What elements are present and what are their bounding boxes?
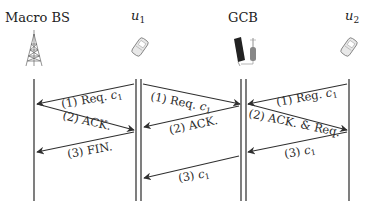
actor-label-gcb: GCB (228, 10, 258, 25)
message-label: (3) c1 (283, 142, 317, 162)
panel-macro-bs-u1: (1) Req. c1 (2) ACK. (3) FIN. (37, 84, 134, 161)
panel-u1-gcb: (1) Req. c1 (2) ACK. (3) c1 (143, 84, 240, 186)
sequence-diagram: Macro BS u1 GCB u2 (0, 0, 370, 208)
message-label: (1) Req. c1 (149, 89, 212, 115)
panel-gcb-u2: (1) Reg. c1 (2) ACK. & Req. (3) c1 (247, 84, 347, 162)
mobile-phone-icon (340, 37, 359, 57)
actor-label-u2: u2 (345, 8, 359, 25)
message-label: (2) ACK. & Req. (247, 106, 341, 139)
cell-tower-icon (26, 30, 42, 66)
solar-powered-base-station-icon (234, 37, 256, 66)
actor-label-u1: u1 (131, 8, 145, 25)
message-label: (3) FIN. (66, 139, 113, 161)
actor-label-macro-bs: Macro BS (5, 10, 70, 25)
mobile-phone-icon (131, 37, 150, 57)
message-label: (1) Req. c1 (60, 86, 123, 111)
message-label: (2) ACK. (61, 108, 112, 133)
message-label: (1) Reg. c1 (275, 84, 338, 109)
